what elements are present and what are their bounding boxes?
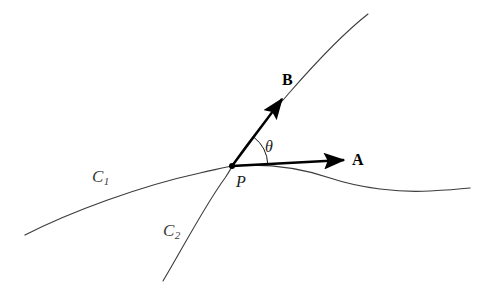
curve-label-c1: C1 — [92, 168, 109, 187]
curve-label-c1-text: C — [92, 167, 103, 186]
curve-label-c2-subscript: 2 — [175, 229, 181, 241]
geometry-figure: C1 C2 P θ A B — [0, 0, 485, 298]
curve-label-c1-subscript: 1 — [104, 175, 110, 187]
point-label-p: P — [236, 174, 246, 190]
diagram-canvas — [0, 0, 485, 298]
vector-a-arrow — [232, 160, 344, 166]
angle-label-theta: θ — [265, 139, 273, 155]
curve-label-c2-text: C — [163, 221, 174, 240]
vector-label-a: A — [352, 152, 364, 168]
curve-label-c2: C2 — [163, 222, 180, 241]
vector-b-arrow — [232, 99, 282, 166]
vector-label-b: B — [282, 72, 293, 88]
intersection-point-dot — [229, 163, 235, 169]
